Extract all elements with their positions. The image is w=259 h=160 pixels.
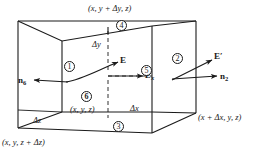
face-number-1: 1	[64, 61, 75, 72]
face-number-3: 3	[113, 121, 124, 132]
coordinate-label-bottom-left: (x, y, z + Δz)	[2, 138, 45, 147]
ex-subscript: x	[151, 74, 154, 81]
vector-label-e-left: E	[120, 56, 126, 65]
dimension-label-delta-y: Δy	[92, 40, 101, 49]
face-number-6: 6	[81, 91, 92, 102]
cube-top-face-edges	[18, 21, 196, 41]
n2-subscript: 2	[225, 75, 228, 82]
dimension-label-delta-x: Δx	[130, 104, 139, 113]
face-number-4: 4	[116, 20, 127, 31]
n6-subscript: 6	[23, 79, 26, 86]
figure-container: (x, y + Δy, z) (x, y, z) (x, y, z + Δz) …	[0, 0, 259, 160]
cube-bottom-right-inner-edge	[152, 112, 196, 113]
face-number-5: 5	[141, 65, 152, 76]
vector-label-n2: n2	[220, 72, 228, 81]
vector-label-e-prime: E′	[214, 52, 223, 61]
coordinate-label-bottom-right: (x + Δx, y, z)	[198, 113, 241, 122]
coordinate-label-origin: (x, y, z)	[70, 105, 95, 114]
face-number-2: 2	[172, 53, 183, 64]
cube-bottom-left-hidden-edge	[18, 110, 62, 112]
n6-normal-vector	[34, 80, 68, 82]
vector-label-n6: n6	[18, 76, 26, 85]
cube-bottom-right-front-edge	[152, 113, 196, 133]
cube-bottom-front-edge	[18, 128, 152, 133]
dimension-label-delta-z: Δz	[33, 116, 41, 125]
coordinate-label-top: (x, y + Δy, z)	[88, 4, 131, 13]
